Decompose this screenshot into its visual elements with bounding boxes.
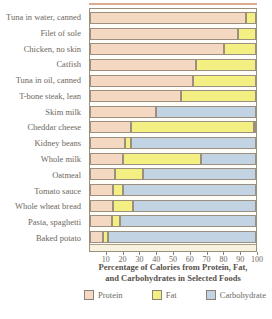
- category-label: Baked potato: [0, 232, 85, 244]
- bar-segment-protein: [90, 184, 113, 196]
- category-label: Oatmeal: [0, 169, 85, 181]
- legend-item-carbohydrate: Carbohydrate: [206, 290, 266, 300]
- legend-swatch-carbohydrate: [206, 290, 216, 300]
- bar-segment-protein: [90, 137, 125, 149]
- legend: ProteinFatCarbohydrate: [84, 290, 266, 300]
- bar-segment-carbohydrate: [143, 168, 256, 180]
- bar-segment-fat: [123, 153, 201, 165]
- bar-segment-carbohydrate: [156, 106, 256, 118]
- bar-row: [90, 231, 256, 243]
- bar-segment-protein: [90, 106, 156, 118]
- category-label: Whole milk: [0, 153, 85, 165]
- bar-row: [90, 215, 256, 227]
- x-axis-title-line2: and Carbohydrates in Selected Foods: [67, 273, 272, 284]
- bar-segment-protein: [90, 90, 181, 102]
- bar-segment-fat: [238, 28, 256, 40]
- bar-row: [90, 106, 256, 118]
- x-axis-title: Percentage of Calories from Protein, Fat…: [67, 262, 272, 283]
- bar-row: [90, 168, 256, 180]
- bar-segment-fat: [224, 43, 256, 55]
- category-label: Cheddar cheese: [0, 121, 85, 133]
- bar-segment-carbohydrate: [108, 231, 256, 243]
- legend-item-protein: Protein: [84, 290, 123, 300]
- bar-row: [90, 75, 256, 87]
- bar-segment-carbohydrate: [254, 121, 256, 133]
- category-label: Filet of sole: [0, 27, 85, 39]
- bar-segment-protein: [90, 200, 113, 212]
- bar-segment-carbohydrate: [201, 153, 256, 165]
- plot-area: [89, 8, 257, 252]
- category-label: Skim milk: [0, 106, 85, 118]
- bar-segment-protein: [90, 43, 224, 55]
- category-label: Chicken, no skin: [0, 43, 85, 55]
- bar-row: [90, 184, 256, 196]
- x-axis-title-line1: Percentage of Calories from Protein, Fat…: [67, 262, 272, 273]
- legend-label: Protein: [98, 290, 123, 300]
- bar-segment-protein: [90, 153, 123, 165]
- category-labels: Tuna in water, cannedFilet of soleChicke…: [0, 11, 85, 244]
- bar-segment-protein: [90, 231, 103, 243]
- bar-segment-fat: [113, 184, 123, 196]
- bar-row: [90, 153, 256, 165]
- bar-segment-fat: [115, 168, 143, 180]
- category-label: Catfish: [0, 58, 85, 70]
- bar-segment-protein: [90, 168, 115, 180]
- bar-segment-protein: [90, 59, 196, 71]
- legend-label: Carbohydrate: [220, 290, 266, 300]
- bar-row: [90, 90, 256, 102]
- bar-segment-protein: [90, 215, 112, 227]
- category-label: T-bone steak, lean: [0, 90, 85, 102]
- bars-container: [90, 12, 256, 243]
- category-label: Kidney beans: [0, 137, 85, 149]
- bar-segment-protein: [90, 12, 246, 24]
- bar-segment-fat: [181, 90, 256, 102]
- stacked-bar-chart: Tuna in water, cannedFilet of soleChicke…: [0, 0, 272, 319]
- legend-swatch-fat: [152, 290, 162, 300]
- category-label: Whole wheat bread: [0, 200, 85, 212]
- bar-row: [90, 28, 256, 40]
- bar-segment-carbohydrate: [131, 137, 256, 149]
- bar-segment-fat: [125, 137, 132, 149]
- category-label: Tuna in oil, canned: [0, 74, 85, 86]
- bar-segment-fat: [196, 59, 256, 71]
- bar-row: [90, 12, 256, 24]
- bar-row: [90, 43, 256, 55]
- category-label: Tuna in water, canned: [0, 11, 85, 23]
- bar-row: [90, 200, 256, 212]
- legend-swatch-protein: [84, 290, 94, 300]
- bar-segment-fat: [246, 12, 256, 24]
- bar-row: [90, 59, 256, 71]
- bar-segment-carbohydrate: [133, 200, 256, 212]
- bar-row: [90, 121, 256, 133]
- bar-segment-fat: [131, 121, 254, 133]
- bar-segment-protein: [90, 121, 131, 133]
- bar-segment-protein: [90, 28, 238, 40]
- top-rule-line: [89, 3, 257, 5]
- bar-segment-fat: [112, 215, 120, 227]
- bar-segment-carbohydrate: [123, 184, 256, 196]
- bar-segment-protein: [90, 75, 193, 87]
- category-label: Tomato sauce: [0, 185, 85, 197]
- bar-segment-fat: [113, 200, 133, 212]
- legend-label: Fat: [166, 290, 177, 300]
- axis-strip: [90, 244, 256, 251]
- bar-segment-carbohydrate: [120, 215, 256, 227]
- bar-segment-fat: [193, 75, 256, 87]
- legend-item-fat: Fat: [152, 290, 177, 300]
- category-label: Pasta, spaghetti: [0, 216, 85, 228]
- bar-row: [90, 137, 256, 149]
